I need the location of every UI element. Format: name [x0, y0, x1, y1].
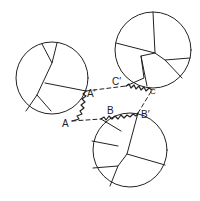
label-c: C [150, 88, 156, 96]
grain-boundary-diagram: A A′ B B′ C C′ [0, 0, 200, 201]
diagram-svg [0, 0, 200, 201]
left-grain-circle [16, 42, 88, 121]
label-c-prime: C′ [112, 77, 121, 87]
label-b-prime: B′ [141, 110, 150, 120]
bottom-grain-circle [92, 113, 167, 187]
label-a-prime: A′ [87, 89, 96, 99]
top-right-grain-circle [115, 12, 191, 91]
label-b: B [107, 106, 114, 116]
label-a: A [62, 119, 69, 129]
